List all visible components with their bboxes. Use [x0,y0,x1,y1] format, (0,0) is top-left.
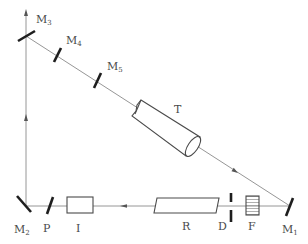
label-m3: M3 [36,13,52,27]
filter-f [246,196,259,215]
mirror-m1 [286,198,293,216]
beam-arrows [24,9,238,208]
telescope-t [132,100,204,159]
component-r [154,198,219,213]
label-i: I [76,222,80,235]
label-m2: M2 [14,223,30,237]
label-m1: M1 [282,223,298,237]
label-p: P [43,222,51,235]
label-m4: M4 [66,34,82,48]
mirror-m3 [18,31,35,41]
arrow-up-icon [24,9,28,16]
optical-diagram: M3 M4 M5 T M2 P I R D F M1 [0,0,308,244]
mirror-m2 [17,196,31,212]
component-i [67,197,93,213]
label-f: F [248,220,256,233]
arrow-up-icon [24,114,28,121]
label-d: D [218,220,227,233]
plate-p [47,197,53,214]
label-r: R [182,220,191,233]
label-t: T [174,103,182,116]
label-m5: M5 [107,60,123,74]
arrow-left-icon [120,204,127,208]
